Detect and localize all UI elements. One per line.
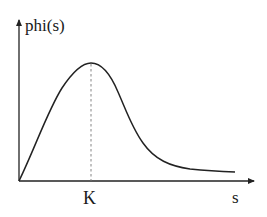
x-axis-label: s [232, 189, 239, 206]
phi-curve [19, 63, 235, 181]
y-axis-label: phi(s) [25, 17, 65, 34]
x-tick-label-k: K [83, 189, 96, 207]
